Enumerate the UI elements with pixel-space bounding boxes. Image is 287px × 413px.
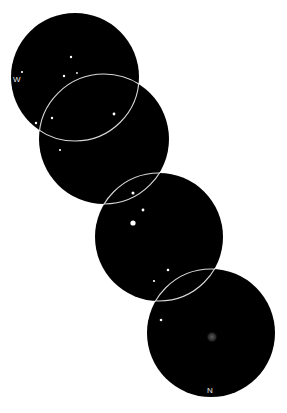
star — [76, 72, 78, 74]
star — [132, 192, 135, 195]
north-label: N — [207, 386, 213, 395]
nebula-glow — [206, 331, 218, 343]
west-label: W — [13, 75, 21, 84]
star — [51, 117, 53, 119]
star — [160, 319, 163, 322]
star — [70, 56, 72, 58]
star — [63, 75, 65, 77]
sketch-canvas: W N — [0, 0, 287, 413]
star — [130, 220, 135, 225]
star — [35, 122, 37, 124]
star — [142, 209, 145, 212]
eyepiece-fields — [11, 13, 275, 397]
star — [59, 149, 61, 151]
star — [21, 71, 23, 73]
star — [113, 113, 116, 116]
star — [153, 280, 155, 282]
star — [167, 269, 170, 272]
